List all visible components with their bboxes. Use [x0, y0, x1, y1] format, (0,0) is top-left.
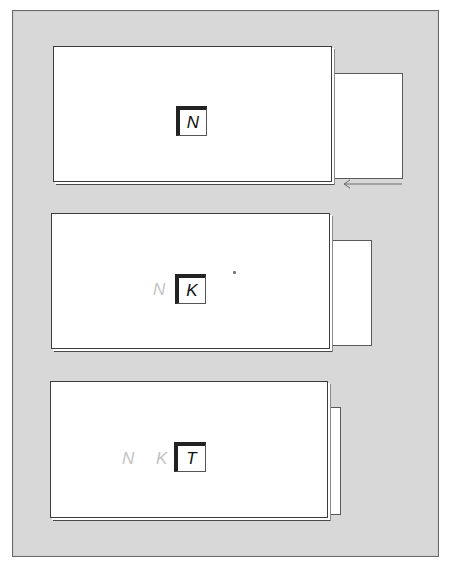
card-2-faded-label-n: N — [153, 280, 165, 300]
card-3-label: T — [186, 449, 196, 469]
card-2-label-box: K — [175, 274, 206, 304]
card-1-side-panel — [331, 73, 403, 179]
card-3-label-box: T — [174, 442, 206, 472]
card-2-side-panel — [329, 240, 372, 346]
card-2-label: K — [186, 281, 197, 301]
card-1-label-box: N — [176, 106, 207, 136]
card-3-faded-label-k: K — [156, 449, 167, 469]
speck-mark — [233, 271, 236, 274]
arrow-left-icon — [343, 179, 403, 189]
card-3-faded-label-n: N — [122, 449, 134, 469]
card-1-label: N — [187, 113, 199, 133]
